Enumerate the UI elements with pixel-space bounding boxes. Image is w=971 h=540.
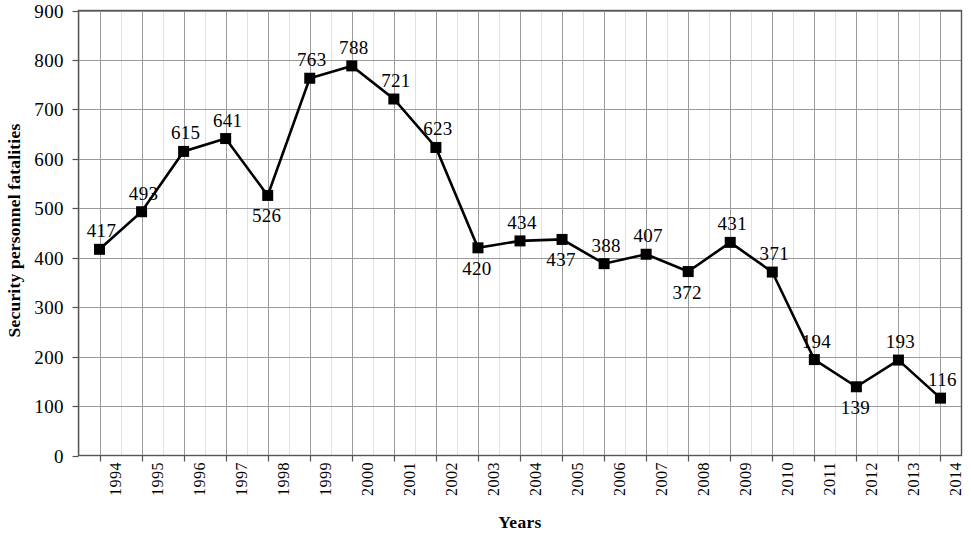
x-axis-tick-label: 2010 <box>780 462 796 496</box>
x-axis-tick-label: 2012 <box>864 462 880 496</box>
x-axis-tick-label: 2011 <box>822 462 838 495</box>
x-axis-tick-label: 1994 <box>108 462 124 496</box>
line-chart: Security personnel fatalities 0100200300… <box>0 0 971 540</box>
x-axis-tick-label: 2006 <box>612 462 628 496</box>
x-axis-tick-label: 2005 <box>570 462 586 496</box>
x-axis-tick-label: 2001 <box>402 462 418 496</box>
x-axis-tick-label: 2000 <box>360 462 376 496</box>
x-axis-tick-label: 2003 <box>486 462 502 496</box>
x-axis-tick-label: 2014 <box>948 462 964 496</box>
x-axis-tick-label: 1997 <box>234 462 250 496</box>
x-axis-tick-label: 1998 <box>276 462 292 496</box>
x-axis-tick-label: 2002 <box>444 462 460 496</box>
x-axis-tick-label: 1996 <box>192 462 208 496</box>
x-axis-title: Years <box>78 512 962 533</box>
x-axis-tick-label: 1995 <box>150 462 166 496</box>
x-axis-tick-label: 1999 <box>318 462 334 496</box>
x-axis-tick-label: 2013 <box>906 462 922 496</box>
x-axis-tick-labels: 1994199519961997199819992000200120022003… <box>0 0 971 540</box>
x-axis-tick-label: 2004 <box>528 462 544 496</box>
x-axis-tick-label: 2007 <box>654 462 670 496</box>
x-axis-tick-label: 2008 <box>696 462 712 496</box>
x-axis-tick-label: 2009 <box>738 462 754 496</box>
